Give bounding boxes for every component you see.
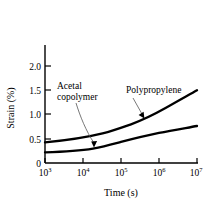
x-tick-mantissa-1e3: 10 — [39, 168, 49, 178]
y-tick-label-0: 0 — [36, 159, 41, 169]
y-tick-label-1-0: 1.0 — [29, 110, 41, 120]
creep-strain-chart-figure: 2.0 1.5 1.0 0.5 0 103 104 105 106 107 — [0, 0, 207, 205]
annotation-acetal-line-1: Acetal — [57, 81, 82, 91]
y-axis-title: Strain (%) — [5, 87, 17, 128]
x-tick-mantissa-1e7: 10 — [190, 168, 200, 178]
x-tick-exponent-1e5: 5 — [124, 166, 127, 173]
y-tick-label-2-0: 2.0 — [29, 62, 41, 72]
chart-canvas: 2.0 1.5 1.0 0.5 0 103 104 105 106 107 — [0, 0, 207, 205]
x-axis-title: Time (s) — [104, 187, 138, 199]
x-tick-mantissa-1e4: 10 — [77, 168, 87, 178]
x-tick-exponent-1e3: 3 — [48, 166, 51, 173]
y-tick-label-1-5: 1.5 — [29, 86, 41, 96]
x-tick-mantissa-1e5: 10 — [115, 168, 125, 178]
y-tick-label-0-5: 0.5 — [29, 135, 41, 145]
x-tick-mantissa-1e6: 10 — [153, 168, 163, 178]
annotation-polypropylene-label: Polypropylene — [126, 85, 181, 95]
annotation-acetal-line-2: copolymer — [57, 92, 98, 102]
